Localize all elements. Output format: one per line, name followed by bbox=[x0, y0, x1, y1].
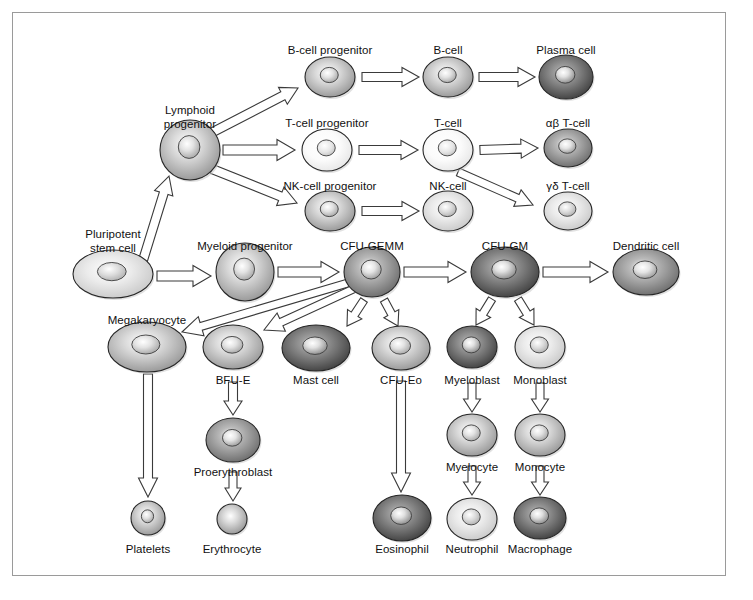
diagram-frame bbox=[12, 12, 726, 576]
cell-label-plasma-cell: Plasma cell bbox=[456, 44, 676, 57]
cell-label-alpha-beta-t-cell: αβ T-cell bbox=[458, 117, 678, 130]
cell-label-monoblast: Monoblast bbox=[430, 374, 650, 387]
cell-label-monocyte: Monocyte bbox=[430, 461, 650, 474]
cell-label-megakaryocyte: Megakaryocyte bbox=[37, 314, 257, 327]
cell-label-macrophage: Macrophage bbox=[430, 543, 650, 556]
figure-caption bbox=[14, 586, 739, 599]
hematopoiesis-diagram: Pluripotent stem cellLymphoid progenitor… bbox=[0, 0, 753, 600]
cell-label-proerythroblast: Proerythroblast bbox=[123, 466, 343, 479]
cell-label-gamma-delta-t-cell: γδ T-cell bbox=[458, 180, 678, 193]
cell-label-dendritic-cell: Dendritic cell bbox=[536, 240, 753, 253]
